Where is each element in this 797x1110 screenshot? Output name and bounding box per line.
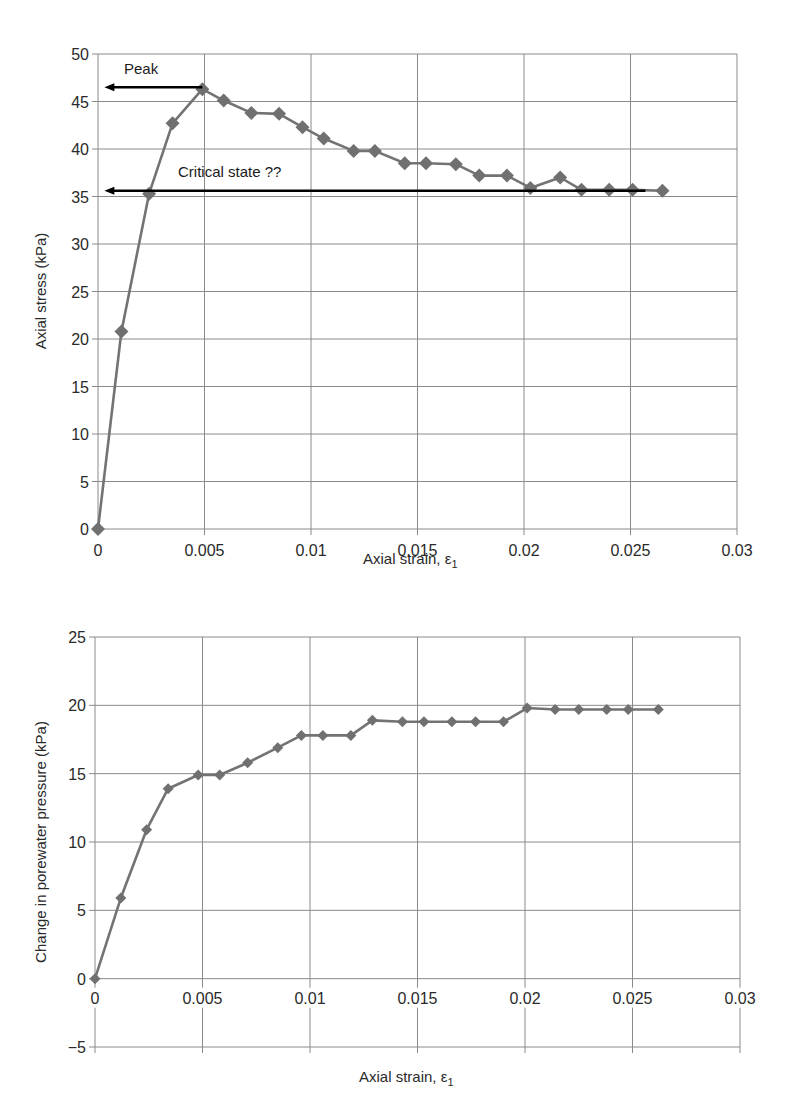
top-chart-grid xyxy=(92,54,737,535)
bottom-chart-series xyxy=(90,703,664,985)
figure: 05101520253035404550 00.0050.010.0150.02… xyxy=(0,0,797,1110)
diamond-marker xyxy=(90,973,101,984)
x-tick-label: 0.01 xyxy=(294,990,325,1007)
x-tick-label: 0.02 xyxy=(509,990,540,1007)
diamond-marker xyxy=(553,171,567,185)
axial-stress-chart: 05101520253035404550 00.0050.010.0150.02… xyxy=(32,46,753,570)
diamond-marker xyxy=(244,106,258,120)
y-tick-label: 25 xyxy=(71,284,89,301)
peak-label: Peak xyxy=(124,60,159,77)
y-tick-label: 5 xyxy=(80,474,89,491)
y-tick-label: −5 xyxy=(68,1039,86,1056)
x-tick-label: 0.01 xyxy=(295,542,326,559)
y-tick-label: 45 xyxy=(71,94,89,111)
diamond-marker xyxy=(449,157,463,171)
y-tick-label: 40 xyxy=(71,141,89,158)
critical-state-label: Critical state ?? xyxy=(178,163,281,180)
diamond-marker xyxy=(368,144,382,158)
y-tick-label: 0 xyxy=(80,521,89,538)
series-line xyxy=(95,708,658,979)
diamond-marker xyxy=(498,716,509,727)
series-line xyxy=(98,89,662,529)
diamond-marker xyxy=(217,94,231,108)
x-tick-label: 0 xyxy=(91,990,100,1007)
x-axis-title-text: Axial strain, ε xyxy=(363,550,452,567)
top-chart-x-axis-title: Axial strain, ε1 xyxy=(363,550,458,570)
diamond-marker xyxy=(472,169,486,183)
x-tick-label: 0.025 xyxy=(612,990,652,1007)
diamond-marker xyxy=(114,324,128,338)
porewater-pressure-chart: −50510152025 00.0050.010.0150.020.0250.0… xyxy=(32,629,760,1088)
arrowhead-icon xyxy=(104,83,114,91)
x-tick-label: 0.025 xyxy=(610,542,650,559)
diamond-marker xyxy=(317,132,331,146)
x-tick-label: 0.005 xyxy=(184,542,224,559)
diamond-marker xyxy=(398,156,412,170)
diamond-marker xyxy=(655,184,669,198)
y-tick-label: 5 xyxy=(77,902,86,919)
y-tick-label: 15 xyxy=(71,379,89,396)
diamond-marker xyxy=(500,169,514,183)
diamond-marker xyxy=(242,757,253,768)
y-tick-label: 35 xyxy=(71,189,89,206)
diamond-marker xyxy=(397,716,408,727)
y-tick-label: 20 xyxy=(71,331,89,348)
y-tick-label: 10 xyxy=(68,834,86,851)
y-tick-label: 25 xyxy=(68,629,86,646)
diamond-marker xyxy=(446,716,457,727)
x-axis-title-subscript: 1 xyxy=(451,558,457,570)
x-axis-title-subscript: 1 xyxy=(447,1076,453,1088)
x-axis-title-text: Axial strain, ε xyxy=(359,1068,448,1085)
y-tick-label: 20 xyxy=(68,697,86,714)
y-tick-label: 50 xyxy=(71,46,89,63)
diamond-marker xyxy=(272,107,286,121)
top-chart-y-ticks: 05101520253035404550 xyxy=(71,46,89,538)
diamond-marker xyxy=(142,187,156,201)
bottom-chart-y-ticks: −50510152025 xyxy=(68,629,86,1056)
bottom-chart-y-axis-title: Change in porewater pressure (kPa) xyxy=(32,721,49,963)
x-tick-label: 0 xyxy=(94,542,103,559)
diamond-marker xyxy=(470,716,481,727)
y-tick-label: 30 xyxy=(71,236,89,253)
x-tick-label: 0.005 xyxy=(182,990,222,1007)
x-tick-label: 0.03 xyxy=(724,990,755,1007)
diamond-marker xyxy=(272,742,283,753)
diamond-marker xyxy=(317,730,328,741)
x-tick-label: 0.015 xyxy=(397,990,437,1007)
diamond-marker xyxy=(295,120,309,134)
top-chart-y-axis-title: Axial stress (kPa) xyxy=(32,233,49,350)
y-tick-label: 10 xyxy=(71,426,89,443)
bottom-chart-x-axis-title: Axial strain, ε1 xyxy=(359,1068,454,1088)
diamond-marker xyxy=(214,770,225,781)
y-tick-label: 0 xyxy=(77,971,86,988)
arrowhead-icon xyxy=(104,187,114,195)
y-tick-label: 15 xyxy=(68,766,86,783)
diamond-marker xyxy=(163,783,174,794)
diamond-marker xyxy=(347,144,361,158)
diamond-marker xyxy=(523,181,537,195)
top-chart-series xyxy=(91,82,669,536)
diamond-marker xyxy=(91,522,105,536)
x-tick-label: 0.03 xyxy=(721,542,752,559)
diamond-marker xyxy=(522,703,533,714)
diamond-marker xyxy=(418,716,429,727)
x-tick-label: 0.02 xyxy=(508,542,539,559)
diamond-marker xyxy=(115,893,126,904)
diamond-marker xyxy=(419,156,433,170)
diamond-marker xyxy=(141,824,152,835)
bottom-chart-x-ticks: 00.0050.010.0150.020.0250.03 xyxy=(89,988,761,1008)
diamond-marker xyxy=(296,730,307,741)
